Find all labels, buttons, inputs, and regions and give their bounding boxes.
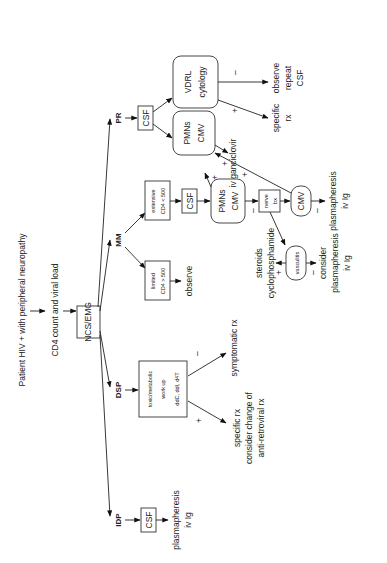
pr-vdrl-line1: VDRL xyxy=(183,70,193,93)
arrow-mm-to-extensive xyxy=(125,213,145,233)
pr-pmns-line1: PMNs xyxy=(182,121,192,144)
cmv-neg-line2: iv Ig xyxy=(340,193,350,209)
vasc-neg-line2: plasmapheresis xyxy=(330,233,340,293)
branch-mm: MM xyxy=(114,233,123,247)
mm-extensive-box xyxy=(145,181,170,220)
vdrl-plus: + xyxy=(230,108,240,113)
vasc-pos-line1: steroids xyxy=(254,248,264,278)
dsp-box-line2: work up xyxy=(160,379,166,399)
title-text: Patient HIV + with peripheral neuropathy xyxy=(17,233,27,387)
flowchart-diagram: Patient HIV + with peripheral neuropathy… xyxy=(0,0,387,563)
pr-vdrl-line2: cytology xyxy=(197,66,207,98)
nerve-bx-line2: bx xyxy=(272,198,278,204)
mm-pmns-minus: – xyxy=(248,208,258,213)
arrow-to-pr xyxy=(98,119,110,307)
idp-result-line2: iv Ig xyxy=(183,512,193,528)
vasculitis-minus: – xyxy=(308,270,318,275)
vasc-neg-line1: consider xyxy=(318,247,328,279)
cd4-text: CD4 count and viral load xyxy=(50,263,60,356)
dsp-minus-sign: – xyxy=(192,351,202,356)
arrow-vdrl-pos xyxy=(218,100,268,118)
vdrl-neg-line3: CSF xyxy=(295,70,305,87)
mm-pmns-line2: CMV xyxy=(230,191,240,210)
branch-idp: IDP xyxy=(114,513,123,527)
dsp-box-line1: toxic/metabolic xyxy=(147,371,153,408)
mm-cmv-label: CMV xyxy=(296,191,306,210)
ncs-emg-label: NCS/EMG xyxy=(83,302,93,342)
arrow-pr-pmns-to-ganciclovir xyxy=(215,145,228,153)
mm-extensive-line2: CD4 < 500 xyxy=(160,188,166,214)
branch-pr: PR xyxy=(114,112,123,123)
vasc-pos-line2: cyclophosphamide xyxy=(266,228,276,299)
vdrl-pos-line1: specific xyxy=(271,103,281,132)
vasculitis-label: vasculitis xyxy=(294,252,300,275)
mm-csf-label: CSF xyxy=(185,193,195,210)
nerve-bx-line1: nerve xyxy=(263,194,269,208)
mm-pmns-plus: + xyxy=(210,175,220,180)
idp-result-line1: plasmapheresis xyxy=(171,490,181,550)
branch-dsp: DSP xyxy=(114,381,123,398)
dsp-pos-line3: anti-retroviral rx xyxy=(256,398,266,458)
mm-extensive-line1: extensive xyxy=(150,189,156,212)
arrow-pr-csf-to-pmns xyxy=(153,124,172,138)
cmv-neg-line1: plasmapheresis xyxy=(328,171,338,231)
mm-limited-line2: CD4 > 500 xyxy=(160,268,166,294)
arrow-dsp-neg xyxy=(188,353,226,376)
vdrl-neg-line2: repeat xyxy=(283,65,293,90)
vdrl-neg-line1: observe xyxy=(271,63,281,94)
pr-csf-label: CSF xyxy=(141,110,151,127)
vasc-neg-line3: iv Ig xyxy=(342,255,352,271)
dsp-pos-line2: consider change of xyxy=(244,391,254,463)
mm-limited-box xyxy=(145,261,170,300)
pr-pmns-cmv-box xyxy=(173,111,215,155)
arrow-pr-csf-to-vdrl xyxy=(153,98,172,112)
mm-observe: observe xyxy=(184,266,194,297)
pr-vdrl-box xyxy=(173,56,218,108)
mm-cmv-plus: + xyxy=(240,172,250,177)
ganciclovir-text: iv ganciclovir xyxy=(228,139,238,188)
pr-pmns-line2: CMV xyxy=(196,123,206,142)
vdrl-pos-line2: rx xyxy=(283,114,293,122)
mm-cmv-minus: – xyxy=(312,208,322,213)
vdrl-minus: – xyxy=(230,70,240,75)
mm-pmns-line1: PMNs xyxy=(217,189,227,212)
arrow-to-idp xyxy=(100,335,110,516)
idp-csf-label: CSF xyxy=(144,512,154,529)
dsp-neg-result: symptomatic rx xyxy=(229,319,239,377)
dsp-box-line3: ddC, ddI, d4T xyxy=(174,372,180,406)
dsp-plus-sign: + xyxy=(194,418,204,423)
arrow-mm-to-limited xyxy=(125,247,145,268)
mm-limited-line1: limited xyxy=(150,273,156,289)
dsp-pos-line1: specific rx xyxy=(232,408,242,447)
